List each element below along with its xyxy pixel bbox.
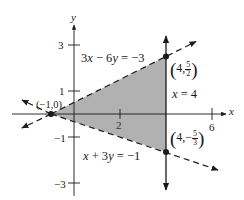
feasible-region-graph: y x 3 1 −1 −3 2 6 3x − 6y = −3 x + 3y = … bbox=[0, 0, 244, 200]
x-coord: 4, bbox=[176, 130, 185, 144]
point-label-4-neg5-3: (4,−53) bbox=[170, 129, 204, 148]
x-coord: 4, bbox=[176, 61, 185, 75]
line-x-3y-eq-neg1-ext bbox=[22, 114, 51, 128]
shaded-region bbox=[51, 57, 166, 153]
x-axis-label: x bbox=[229, 106, 234, 117]
x-tick-label-6: 6 bbox=[209, 122, 215, 133]
sign: − bbox=[185, 130, 192, 144]
equation-label-x-eq-4: x = 4 bbox=[172, 88, 197, 101]
rhs: = −1 bbox=[114, 149, 141, 163]
vertex-point-4-neg5-3 bbox=[163, 149, 169, 155]
y-axis-label: y bbox=[71, 12, 76, 23]
y-tick-label-3: 3 bbox=[58, 40, 64, 51]
op: + 3 bbox=[89, 149, 109, 163]
op: − 6 bbox=[93, 51, 113, 65]
rhs: = −3 bbox=[118, 51, 145, 65]
vertex-point-4-5-2 bbox=[163, 54, 169, 60]
vertex-point-neg1-0 bbox=[48, 111, 54, 117]
point-label-4-5-2: (4,52) bbox=[170, 60, 198, 79]
equation-label-x-3y: x + 3y = −1 bbox=[83, 150, 140, 163]
equation-label-3x-6y: 3x − 6y = −3 bbox=[81, 52, 145, 65]
x-tick-label-2: 2 bbox=[116, 120, 122, 131]
point-label-neg1-0: (−1,0) bbox=[36, 100, 62, 111]
rhs: = 4 bbox=[178, 87, 198, 101]
y-tick-label-1: 1 bbox=[59, 86, 65, 97]
y-tick-label-neg3: −3 bbox=[54, 179, 66, 190]
y-tick-label-neg1: −1 bbox=[54, 133, 66, 144]
